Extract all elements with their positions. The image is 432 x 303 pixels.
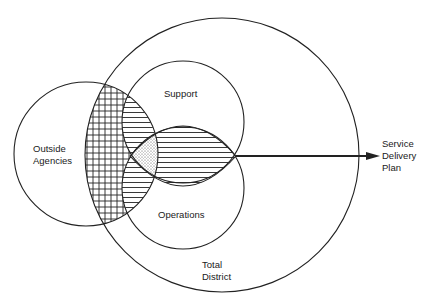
total-district-line-2: District xyxy=(202,271,231,283)
service-line-1: Service xyxy=(382,138,416,150)
service-delivery-plan-label: Service Delivery Plan xyxy=(382,138,416,174)
outside-agencies-label: Outside Agencies xyxy=(33,143,72,167)
support-label-text: Support xyxy=(164,88,197,100)
service-line-3: Plan xyxy=(382,162,416,174)
total-district-label: Total District xyxy=(202,259,231,283)
arrow-head-icon xyxy=(366,152,380,160)
operations-label: Operations xyxy=(158,209,204,221)
support-label: Support xyxy=(164,88,197,100)
service-line-2: Delivery xyxy=(382,150,416,162)
total-district-line-1: Total xyxy=(202,259,231,271)
operations-label-text: Operations xyxy=(158,209,204,221)
outside-agencies-line-2: Agencies xyxy=(33,155,72,167)
outside-agencies-line-1: Outside xyxy=(33,143,72,155)
